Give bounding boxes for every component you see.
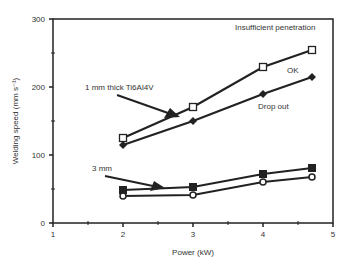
y-tick-label: 200 [32,83,46,92]
annotation-ok: OK [287,66,299,75]
y-axis-title: Welding speed (mm s⁻¹) [11,77,20,164]
x-tick-label: 5 [331,230,336,239]
annotation-arrows [105,95,180,191]
annotation-3mm: 3 mm [92,164,112,173]
x-tick-label: 2 [121,230,126,239]
y-tick-label: 300 [32,15,46,24]
welding-speed-chart: 0 100 200 300 1 2 3 4 5 Power (kW) Weldi… [0,0,349,268]
annotation-drop-out: Drop out [258,102,289,111]
chart-svg: 0 100 200 300 1 2 3 4 5 Power (kW) Weldi… [0,0,349,268]
y-tick-label: 0 [41,219,46,228]
series-1mm-upper [123,50,312,138]
arrow-head-icon [150,181,165,191]
annotation-1mm: 1 mm thick Ti6Al4V [85,83,154,92]
x-tick-label: 1 [51,230,56,239]
series-lines [123,50,312,196]
y-axis [49,19,55,223]
y-tick-label: 100 [32,151,46,160]
annotation-insufficient-penetration: Insufficient penetration [235,23,315,32]
x-axis-title: Power (kW) [172,248,214,257]
x-axis [53,221,333,227]
x-tick-label: 3 [191,230,196,239]
x-tick-label: 4 [261,230,266,239]
